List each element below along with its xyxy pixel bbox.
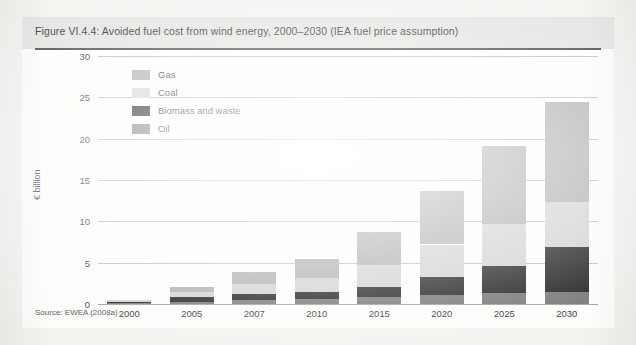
- bar-segment-oil-2015: [357, 297, 401, 304]
- legend-label-biomass-and-waste: Biomass and waste: [158, 105, 240, 116]
- bar-segment-coal-2030: [545, 202, 589, 247]
- bar-segment-coal-2020: [420, 245, 464, 277]
- figure-page: Figure VI.4.4: Avoided fuel cost from wi…: [0, 0, 636, 345]
- gridline-0: [98, 304, 598, 305]
- bar-2025: [482, 146, 526, 304]
- bar-2005: [170, 287, 214, 304]
- bar-segment-biomass-2005: [170, 297, 214, 301]
- bar-2030: [545, 102, 589, 304]
- y-tick-30: 30: [50, 51, 90, 62]
- bar-segment-coal-2025: [482, 224, 526, 266]
- bar-segment-gas-2030: [545, 102, 589, 201]
- bar-segment-biomass-2010: [295, 292, 339, 299]
- bar-segment-oil-2010: [295, 299, 339, 304]
- bar-segment-oil-2005: [170, 302, 214, 304]
- y-tick-5: 5: [50, 257, 90, 268]
- y-tick-10: 10: [50, 216, 90, 227]
- y-tick-15: 15: [50, 175, 90, 186]
- legend-label-gas: Gas: [158, 69, 175, 80]
- chart-plot-area: € billion 051015202530 20002005200720102…: [22, 50, 614, 328]
- bar-segment-biomass-2000: [107, 302, 151, 304]
- legend-swatch-biomass-and-waste: [132, 106, 150, 116]
- legend-label-oil: Oil: [158, 123, 170, 134]
- bar-segment-coal-2005: [170, 292, 214, 297]
- bar-segment-gas-2015: [357, 232, 401, 265]
- x-tick-2030: 2030: [527, 308, 607, 319]
- y-tick-20: 20: [50, 133, 90, 144]
- bar-segment-gas-2007: [232, 272, 276, 284]
- bar-segment-biomass-2015: [357, 287, 401, 298]
- figure-title-band: Figure VI.4.4: Avoided fuel cost from wi…: [22, 17, 614, 49]
- bar-segment-oil-2020: [420, 295, 464, 304]
- bar-segment-coal-2010: [295, 278, 339, 292]
- bar-segment-coal-2015: [357, 265, 401, 286]
- y-tick-25: 25: [50, 92, 90, 103]
- figure-source: Source: EWEA (2008a): [35, 308, 118, 317]
- bar-2000: [107, 301, 151, 304]
- bar-segment-oil-2007: [232, 300, 276, 304]
- bar-segment-coal-2007: [232, 284, 276, 294]
- bar-segment-biomass-2030: [545, 247, 589, 292]
- bar-segment-biomass-2020: [420, 277, 464, 295]
- bar-segment-gas-2005: [170, 287, 214, 292]
- bar-2020: [420, 191, 464, 304]
- y-axis-label: € billion: [32, 169, 42, 200]
- bar-2015: [357, 232, 401, 304]
- legend-swatch-coal: [132, 88, 150, 98]
- bar-2007: [232, 272, 276, 304]
- bar-segment-biomass-2025: [482, 266, 526, 293]
- bar-segment-oil-2030: [545, 292, 589, 304]
- bar-segment-oil-2025: [482, 293, 526, 304]
- legend-swatch-gas: [132, 70, 150, 80]
- bar-segment-coal-2000: [107, 300, 151, 301]
- bar-2010: [295, 259, 339, 304]
- bar-segment-gas-2020: [420, 191, 464, 245]
- bar-segment-biomass-2007: [232, 294, 276, 300]
- figure-container: Figure VI.4.4: Avoided fuel cost from wi…: [22, 17, 614, 328]
- legend-swatch-oil: [132, 124, 150, 134]
- figure-title: Figure VI.4.4: Avoided fuel cost from wi…: [35, 25, 458, 37]
- legend-label-coal: Coal: [158, 87, 178, 98]
- bar-segment-gas-2025: [482, 146, 526, 224]
- bar-segment-gas-2010: [295, 259, 339, 277]
